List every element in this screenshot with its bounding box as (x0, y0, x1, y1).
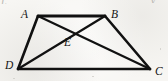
segment-AD (18, 16, 38, 69)
vertex-label-A: A (21, 9, 28, 21)
scan-artifact-top-left: L (1, 0, 9, 4)
geometry-figure: A B C D E L V (0, 0, 168, 81)
vertex-label-B: B (111, 9, 118, 21)
vertex-label-E: E (64, 37, 71, 49)
vertex-label-D: D (5, 60, 13, 72)
segment-BC (105, 16, 150, 69)
figure-strokes (18, 16, 150, 69)
scan-artifact-top-right: V (150, 0, 159, 3)
vertex-label-C: C (155, 66, 163, 78)
